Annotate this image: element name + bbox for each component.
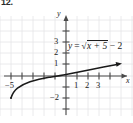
y-tick-label-1: 1 bbox=[54, 58, 58, 68]
x-tick-label-2: 2 bbox=[85, 80, 89, 90]
x-tick-label-3: 3 bbox=[96, 80, 100, 90]
y-tick-label-2: 2 bbox=[54, 47, 58, 57]
y-tick-label-3: 3 bbox=[54, 36, 58, 46]
radicand: x + 5 bbox=[87, 40, 108, 51]
coordinate-plane bbox=[0, 0, 133, 123]
y-tick-label-neg2: −2 bbox=[50, 92, 59, 102]
x-tick-label-neg5: −5 bbox=[5, 80, 14, 90]
equation-tail: − 2 bbox=[110, 41, 122, 51]
y-axis-name: y bbox=[57, 9, 61, 18]
graph-figure: 12. bbox=[0, 0, 133, 123]
equation-annotation: y=√x + 5− 2 bbox=[68, 41, 122, 51]
equation-lhs: y bbox=[68, 41, 72, 51]
equation-equals: = bbox=[74, 41, 79, 51]
x-tick-label-1: 1 bbox=[74, 80, 78, 90]
radical-group: √x + 5 bbox=[82, 41, 108, 51]
y-axis bbox=[63, 15, 70, 115]
x-axis-name: x bbox=[126, 76, 130, 85]
radical-sign: √ bbox=[82, 41, 87, 51]
